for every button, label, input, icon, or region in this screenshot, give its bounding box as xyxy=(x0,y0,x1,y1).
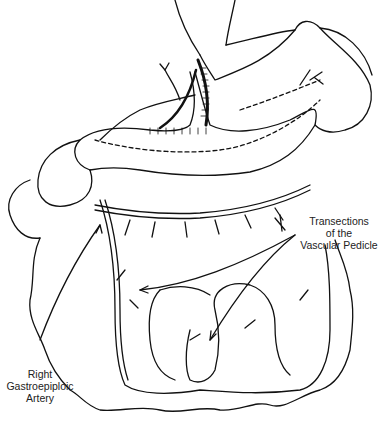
stomach-omentum-drawing xyxy=(0,0,382,427)
transections-line-3: Vascular Pedicle xyxy=(296,239,382,251)
anatomical-diagram: Transections of the Vascular Pedicle Rig… xyxy=(0,0,382,427)
artery-label: Right Gastroepiploic Artery xyxy=(2,368,78,404)
artery-line-1: Right xyxy=(2,368,78,380)
transections-label: Transections of the Vascular Pedicle xyxy=(296,215,382,251)
transections-line-1: Transections xyxy=(296,215,382,227)
artery-line-2: Gastroepiploic xyxy=(2,380,78,392)
artery-line-3: Artery xyxy=(2,392,78,404)
transections-line-2: of the xyxy=(296,227,382,239)
